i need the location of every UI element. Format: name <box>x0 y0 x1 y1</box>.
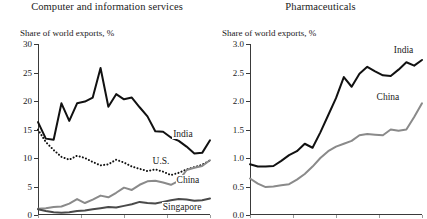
chart-panel-computer-services: Computer and information services Share … <box>0 0 214 219</box>
panel-title-left: Computer and information services <box>0 1 214 12</box>
x-tick-1-2 <box>336 215 337 218</box>
x-tick-0-4 <box>210 215 211 218</box>
x-tick-0-3 <box>167 215 168 218</box>
y-tick-label-0-3: 15 <box>23 125 32 135</box>
x-tick-1-4 <box>422 215 423 218</box>
figure-container: Computer and information services Share … <box>0 0 427 219</box>
series-label-china: China <box>176 175 201 185</box>
y-tick-label-0-2: 10 <box>23 153 32 163</box>
y-axis-title-right: Share of world exports, % <box>222 28 316 38</box>
y-tick-label-0-1: 5 <box>28 182 33 192</box>
series-line-india <box>250 60 422 167</box>
y-axis-title-left: Share of world exports, % <box>20 28 114 38</box>
y-tick-label-1-2: 1.0 <box>233 153 244 163</box>
y-tick-label-1-3: 1.5 <box>233 125 244 135</box>
chart-panel-pharmaceuticals: Pharmaceuticals Share of world exports, … <box>214 0 427 219</box>
series-layer-1 <box>250 44 422 215</box>
x-tick-0-1 <box>81 215 82 218</box>
y-tick-label-1-1: 0.5 <box>233 182 244 192</box>
y-tick-label-1-5: 2.5 <box>233 68 244 78</box>
y-tick-label-1-4: 2.0 <box>233 96 244 106</box>
y-tick-label-1-0: 0.0 <box>233 210 244 219</box>
series-label-china: China <box>376 92 401 102</box>
plot-area-right: 0.00.51.01.52.02.53.0IndiaChina <box>250 44 422 215</box>
series-label-india: India <box>393 45 415 55</box>
x-tick-1-3 <box>379 215 380 218</box>
x-tick-1-0 <box>250 215 251 218</box>
y-tick-label-0-5: 25 <box>23 68 32 78</box>
y-tick-label-0-6: 30 <box>23 39 32 49</box>
series-label-us: U.S. <box>152 156 171 166</box>
x-tick-0-0 <box>38 215 39 218</box>
panel-title-right: Pharmaceuticals <box>214 1 427 12</box>
series-line-india <box>38 68 210 154</box>
y-tick-label-0-0: 0 <box>28 210 33 219</box>
plot-area-left: 051015202530IndiaU.S.ChinaSingapore <box>38 44 210 215</box>
series-line-china <box>250 103 422 187</box>
x-tick-1-1 <box>293 215 294 218</box>
series-label-india: India <box>172 129 194 139</box>
y-tick-label-0-4: 20 <box>23 96 32 106</box>
series-label-singapore: Singapore <box>162 202 203 212</box>
y-tick-label-1-6: 3.0 <box>233 39 244 49</box>
x-tick-0-2 <box>124 215 125 218</box>
